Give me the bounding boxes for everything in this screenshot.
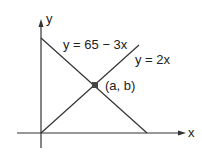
y-axis-label: y bbox=[46, 11, 53, 26]
line-decreasing-label: y = 65 − 3x bbox=[63, 37, 128, 52]
x-axis-arrow-icon bbox=[178, 131, 186, 136]
intersection-label: (a, b) bbox=[105, 78, 135, 93]
y-axis-arrow-icon bbox=[39, 19, 44, 27]
intersection-point bbox=[92, 82, 98, 88]
coordinate-diagram: y x y = 65 − 3x y = 2x (a, b) bbox=[0, 0, 202, 158]
line-increasing-label: y = 2x bbox=[135, 52, 171, 67]
x-axis-label: x bbox=[188, 125, 195, 140]
